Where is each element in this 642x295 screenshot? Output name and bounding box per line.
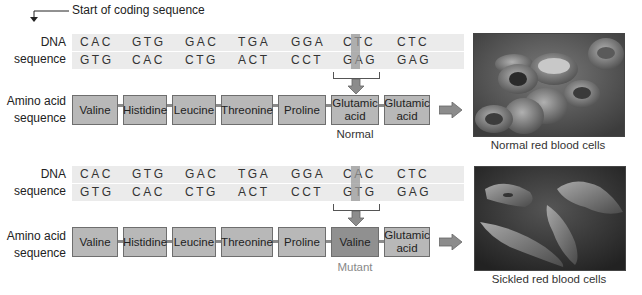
amino-acid-box: Valine	[72, 227, 118, 257]
amino-acid-box: Threonine	[221, 227, 273, 257]
codon: GTG	[80, 184, 114, 201]
amino-acid-box: Proline	[278, 95, 326, 125]
normal-image-caption: Normal red blood cells	[473, 139, 623, 151]
codon: CTG	[185, 52, 218, 69]
codon: CCT	[291, 52, 323, 69]
dna-label-mutant: DNAsequence	[0, 166, 66, 200]
amino-acid-box: Proline	[278, 227, 326, 257]
codon: GGA	[291, 34, 325, 51]
codon: TGA	[238, 34, 270, 51]
amino-acid-box: Leucine	[172, 95, 216, 125]
codon: GAC	[185, 34, 219, 51]
dna-strand-bottom-normal: GTG CAC CTG ACT CCT GAG GAG	[72, 52, 464, 69]
codon-bracket-normal	[333, 72, 380, 79]
sickled-image-caption: Sickled red blood cells	[474, 273, 624, 285]
amino-acid-box: Histidine	[123, 95, 167, 125]
codon: GGA	[291, 166, 325, 183]
amino-acid-box: Glutamic acid	[384, 95, 430, 125]
amino-acid-box-mutation-site: Valine	[331, 227, 379, 257]
codon: TGA	[238, 166, 270, 183]
codon: CAC	[132, 184, 165, 201]
codon: GTG	[132, 34, 166, 51]
mutant-caption: Mutant	[331, 261, 379, 273]
sickled-red-blood-cells-image	[474, 166, 626, 271]
codon: CAC	[80, 34, 113, 51]
codon: ACT	[238, 52, 270, 69]
codon: GTG	[132, 166, 166, 183]
right-arrow-icon	[439, 102, 463, 122]
dna-strand-bottom-mutant: GTG CAC CTG ACT CCT GTG GAG	[72, 184, 464, 201]
codon: ACT	[238, 184, 270, 201]
codon: GAC	[185, 166, 219, 183]
codon: CTC	[397, 34, 429, 51]
corner-arrow-icon	[29, 8, 69, 22]
amino-acid-box: Valine	[72, 95, 118, 125]
codon-bracket-mutant	[333, 204, 380, 211]
normal-caption: Normal	[331, 128, 379, 140]
codon: CTG	[185, 184, 218, 201]
codon: CAC	[80, 166, 113, 183]
dna-strand-top-mutant: CAC GTG GAC TGA GGA CAC CTC	[72, 166, 464, 183]
amino-acid-box-mutation-site: Glutamic acid	[331, 95, 379, 125]
codon: CTC	[397, 166, 429, 183]
codon: CAC	[132, 52, 165, 69]
dna-label-normal: DNAsequence	[0, 34, 66, 68]
codon: GAG	[397, 184, 431, 201]
amino-acid-box: Glutamic acid	[384, 227, 430, 257]
mutation-highlight-normal	[351, 34, 360, 69]
amino-acid-box: Leucine	[172, 227, 216, 257]
amino-acid-box: Threonine	[221, 95, 273, 125]
start-coding-label: Start of coding sequence	[72, 3, 205, 17]
amino-label-normal: Amino acidsequence	[0, 93, 66, 127]
start-pointer	[29, 8, 69, 22]
amino-acid-box: Histidine	[123, 227, 167, 257]
mutation-highlight-mutant	[351, 166, 360, 201]
amino-label-mutant: Amino acidsequence	[0, 228, 66, 262]
codon: GAG	[397, 52, 431, 69]
dna-strand-top-normal: CAC GTG GAC TGA GGA CTC CTC	[72, 34, 464, 51]
codon: GTG	[80, 52, 114, 69]
normal-red-blood-cells-image	[473, 33, 625, 137]
codon: CCT	[291, 184, 323, 201]
right-arrow-icon	[439, 234, 463, 254]
codon-mutation-site: GAG	[343, 52, 377, 69]
